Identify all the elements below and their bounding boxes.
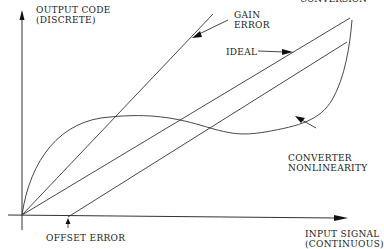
x-axis-arrow-icon bbox=[334, 215, 348, 221]
cut-off-title: CONVERSION bbox=[300, 0, 367, 4]
nonlinearity-pointer bbox=[295, 116, 316, 128]
offset-error-arrow-icon bbox=[66, 218, 71, 224]
gain-error-line bbox=[22, 14, 213, 215]
ideal-arrow-icon bbox=[282, 49, 293, 55]
nonlinearity-label: CONVERTER NONLINEARITY bbox=[288, 153, 367, 173]
offset-error-label: OFFSET ERROR bbox=[46, 233, 125, 243]
offset-error-line bbox=[68, 42, 347, 217]
offset-error-pointer bbox=[66, 218, 71, 228]
gain-error-pointer bbox=[192, 20, 228, 38]
y-axis-label-line2: (DISCRETE) bbox=[36, 15, 111, 25]
gain-error-label-line1: GAIN bbox=[234, 10, 270, 20]
gain-error-label: GAIN ERROR bbox=[234, 10, 270, 30]
x-axis-label: INPUT SIGNAL (CONTINUOUS) bbox=[305, 229, 384, 249]
y-axis-label: OUTPUT CODE (DISCRETE) bbox=[36, 5, 111, 25]
nonlinearity-arrow-icon bbox=[295, 116, 305, 123]
y-axis-label-line1: OUTPUT CODE bbox=[36, 5, 111, 15]
x-axis bbox=[8, 215, 348, 221]
y-axis bbox=[20, 10, 25, 230]
ideal-label: IDEAL bbox=[226, 47, 257, 57]
ideal-pointer bbox=[258, 49, 293, 55]
x-axis-label-line2: (CONTINUOUS) bbox=[305, 239, 384, 249]
ideal-line bbox=[22, 18, 350, 215]
gain-error-label-line2: ERROR bbox=[234, 20, 270, 30]
y-axis-arrow-icon bbox=[20, 10, 25, 20]
x-axis-label-line1: INPUT SIGNAL bbox=[305, 229, 384, 239]
nonlinearity-label-line2: NONLINEARITY bbox=[288, 163, 367, 173]
nonlinearity-label-line1: CONVERTER bbox=[288, 153, 367, 163]
